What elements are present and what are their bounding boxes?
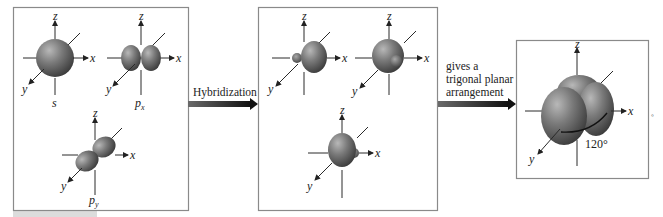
x-axis-label: x — [341, 51, 348, 65]
arrow2-line-3: arrangement — [446, 86, 504, 99]
x-axis-label: x — [627, 104, 634, 118]
y-axis-label: y — [351, 84, 358, 98]
left-panel: z x y s z x y px — [14, 8, 189, 211]
z-axis-label: z — [52, 9, 58, 23]
x-axis-label: x — [175, 51, 182, 65]
y-axis-label: y — [306, 179, 313, 193]
margin-mark: ◦ — [651, 111, 654, 120]
y-axis-label: y — [528, 152, 535, 166]
y-axis-label: y — [105, 82, 112, 96]
footer-bar — [13, 211, 97, 217]
x-axis-label: x — [374, 146, 381, 160]
y-axis-label: y — [21, 82, 28, 96]
hybridization-figure: z x y s z x y px — [0, 0, 663, 217]
z-axis-label: z — [138, 9, 144, 23]
orbital-label-s: s — [52, 96, 57, 110]
z-axis-label: z — [301, 9, 307, 23]
z-axis-label: z — [574, 37, 580, 51]
y-axis-label: y — [267, 82, 274, 96]
x-axis-label: x — [423, 51, 430, 65]
x-axis-label: x — [89, 51, 96, 65]
x-axis-label: x — [129, 148, 136, 162]
z-axis-label: z — [386, 9, 392, 23]
arrow2-line-1: gives a — [446, 60, 478, 73]
z-axis-label: z — [339, 103, 345, 117]
arrow2-line-2: trigonal planar — [446, 73, 514, 86]
angle-label: 120° — [585, 137, 608, 151]
right-panel: z x y 120° — [517, 37, 649, 179]
z-axis-label: z — [92, 106, 98, 120]
hybridization-label: Hybridization — [193, 86, 257, 99]
trigonal-planar-arrow: gives a trigonal planar arrangement — [438, 60, 516, 110]
y-axis-label: y — [60, 179, 67, 193]
middle-panel: z x y z x y z — [259, 8, 438, 211]
hybridization-arrow: Hybridization — [188, 86, 258, 110]
